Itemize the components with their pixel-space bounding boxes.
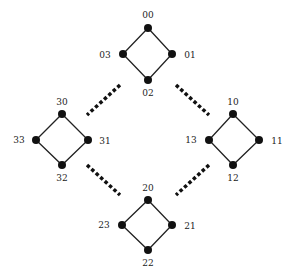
node-label-00: 00 (142, 10, 153, 20)
node-label-10: 10 (227, 97, 238, 107)
node-13 (205, 136, 213, 144)
diamond-group-2 (122, 200, 172, 250)
node-20 (144, 196, 152, 204)
node-10 (229, 110, 237, 118)
dotted-link-0-1 (176, 85, 209, 115)
node-label-11: 11 (271, 136, 282, 146)
node-label-32: 32 (56, 173, 67, 183)
node-31 (84, 136, 92, 144)
node-label-31: 31 (99, 136, 110, 146)
node-00 (144, 24, 152, 32)
node-label-21: 21 (184, 221, 195, 231)
node-label-30: 30 (56, 97, 67, 107)
node-label-22: 22 (142, 258, 153, 268)
node-label-33: 33 (13, 135, 24, 145)
dotted-link-1-2 (176, 165, 209, 195)
node-label-02: 02 (142, 88, 153, 98)
diamond-group-0 (123, 28, 172, 80)
node-label-03: 03 (99, 50, 110, 60)
node-21 (168, 221, 176, 229)
node-22 (144, 246, 152, 254)
diagram-canvas (0, 0, 291, 279)
dotted-link-3-2 (87, 165, 120, 195)
dotted-link-0-3 (87, 85, 120, 115)
node-label-12: 12 (227, 173, 238, 183)
node-33 (32, 136, 40, 144)
node-label-01: 01 (184, 50, 195, 60)
node-label-23: 23 (98, 220, 109, 230)
node-12 (229, 161, 237, 169)
node-02 (144, 76, 152, 84)
node-11 (255, 136, 263, 144)
node-30 (58, 110, 66, 118)
diamond-group-1 (209, 114, 259, 165)
node-01 (168, 50, 176, 58)
node-label-20: 20 (142, 183, 153, 193)
node-32 (58, 161, 66, 169)
diamond-group-3 (36, 114, 88, 165)
node-label-13: 13 (185, 135, 196, 145)
node-23 (118, 221, 126, 229)
node-03 (119, 50, 127, 58)
